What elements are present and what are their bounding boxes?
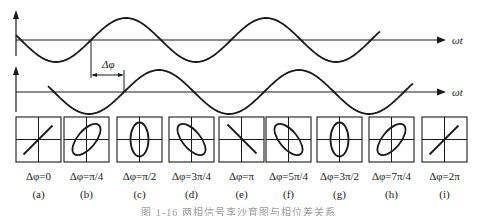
phase-arrow-right-icon (118, 73, 124, 77)
lissajous-panel-i (422, 117, 467, 162)
panel-label-b: Δφ=π/4 (59, 170, 115, 182)
lissajous-panel-e (219, 117, 264, 162)
panel-sublabel-g: (g) (325, 188, 355, 200)
lissajous-panel-f (266, 117, 311, 162)
bottom-horizontal-arrow-icon (437, 89, 446, 96)
top-horizontal-arrow-icon (437, 37, 446, 44)
lissajous-panel-c (117, 117, 162, 162)
lissajous-panel-h (369, 117, 414, 162)
panel-sublabel-i: (i) (430, 188, 460, 200)
top-vertical-arrow-icon (13, 10, 19, 19)
panel-label-f: Δφ=5π/4 (261, 170, 317, 182)
lissajous-panel-d (169, 117, 214, 162)
panel-label-h: Δφ=7π/4 (364, 170, 420, 182)
phase-difference-label: Δφ (102, 58, 115, 70)
panel-sublabel-e: (e) (227, 188, 257, 200)
panel-sublabel-d: (d) (177, 188, 207, 200)
panel-sublabel-c: (c) (125, 188, 155, 200)
lissajous-panel-b (64, 117, 109, 162)
top-axis-label: ωt (452, 34, 463, 46)
panel-sublabel-b: (b) (72, 188, 102, 200)
lissajous-panel-a (16, 117, 61, 162)
panel-label-g: Δφ=3π/2 (312, 170, 368, 182)
bottom-axis-label: ωt (452, 86, 463, 98)
panel-sublabel-a: (a) (24, 188, 54, 200)
panel-sublabel-h: (h) (377, 188, 407, 200)
panel-label-i: Δφ=2π (417, 170, 473, 182)
lissajous-panel-g (317, 117, 362, 162)
phase-arrow-left-icon (91, 73, 97, 77)
phase-diagram (0, 0, 477, 216)
panel-sublabel-f: (f) (274, 188, 304, 200)
bottom-vertical-arrow-icon (13, 66, 19, 75)
panel-label-c: Δφ=π/2 (112, 170, 168, 182)
panel-label-d: Δφ=3π/4 (164, 170, 220, 182)
figure-caption: 图 1-16 两相信号李沙育图与相位差关系 (0, 204, 477, 216)
waveforms (13, 10, 446, 114)
lissajous-panels (16, 117, 467, 162)
